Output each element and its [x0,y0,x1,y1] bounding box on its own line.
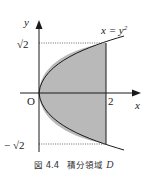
x-axis-arrow-icon [132,90,141,97]
curve-label: x = y2 [100,24,128,36]
integration-region-figure: y x O 2 √2 − √2 x = y2 図 4.4積分領域D [0,0,148,180]
origin-label: O [27,95,35,107]
y-tick-neg-sqrt2: − √2 [4,139,25,151]
y-axis-label: y [23,16,29,28]
x-tick-2: 2 [108,95,114,107]
figure-caption: 図 4.4積分領域D [34,159,114,170]
x-axis-label: x [134,99,140,111]
y-tick-sqrt2: √2 [17,38,29,50]
y-axis-arrow-icon [36,20,43,29]
